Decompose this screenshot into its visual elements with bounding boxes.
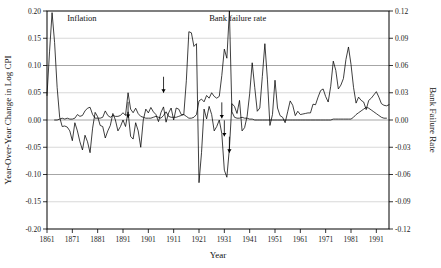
series-annotations: InflationBank failure rate (67, 13, 266, 23)
y-tick-label: -0.15 (25, 197, 41, 206)
y-tick-label: 0.20 (28, 7, 41, 16)
y2-tick-label: 0.03 (395, 88, 408, 97)
event-marker (220, 102, 224, 118)
y2-tick-label: -0.03 (395, 143, 411, 152)
y-tick-label: 0.15 (28, 34, 41, 43)
y-tick-label: 0.10 (28, 61, 41, 70)
chart-canvas: 0.200.150.100.050.00-0.05-0.10-0.15-0.20… (0, 0, 441, 268)
axis-tick-labels: 0.200.150.100.050.00-0.05-0.10-0.15-0.20… (25, 7, 410, 244)
y-tick-label: 0.05 (28, 88, 41, 97)
axis-ticks (43, 11, 393, 233)
event-marker (222, 120, 226, 136)
x-tick-label: 1951 (268, 235, 283, 244)
x-tick-label: 1921 (192, 235, 207, 244)
y-tick-label: -0.05 (25, 143, 41, 152)
x-tick-label: 1991 (369, 235, 384, 244)
x-tick-label: 1891 (116, 235, 131, 244)
annotation-bank-failure-rate: Bank failure rate (209, 13, 266, 23)
x-tick-label: 1901 (141, 235, 156, 244)
x-tick-label: 1971 (318, 235, 333, 244)
y2-tick-label: 0.09 (395, 34, 408, 43)
event-marker (161, 77, 165, 93)
x-tick-label: 1911 (166, 235, 181, 244)
y2-tick-label: -0.12 (395, 225, 411, 234)
x-tick-label: 1981 (344, 235, 359, 244)
y2-tick-label: 0.06 (395, 61, 408, 70)
y2-tick-label: -0.06 (395, 170, 411, 179)
y2-axis-title: Bank Failure Rate (428, 87, 438, 152)
y2-tick-label: 0.12 (395, 7, 408, 16)
y-tick-label: 0.00 (28, 116, 41, 125)
x-tick-label: 1941 (242, 235, 257, 244)
x-axis-title: Year (210, 250, 227, 260)
y2-tick-label: 0.00 (395, 116, 408, 125)
x-tick-label: 1961 (293, 235, 308, 244)
y-axis-title: Year-Over-Year Change in Log CPI (3, 56, 13, 185)
y2-tick-label: -0.09 (395, 197, 411, 206)
y-tick-label: -0.10 (25, 170, 41, 179)
x-tick-label: 1881 (90, 235, 105, 244)
x-tick-label: 1861 (40, 235, 55, 244)
chart-figure: 0.200.150.100.050.00-0.05-0.10-0.15-0.20… (0, 0, 441, 268)
annotation-inflation: Inflation (67, 13, 97, 23)
event-marker (227, 137, 231, 153)
data-series (47, 11, 389, 183)
x-tick-label: 1931 (217, 235, 232, 244)
event-markers (126, 77, 232, 153)
y-tick-label: -0.20 (25, 225, 41, 234)
x-tick-label: 1871 (65, 235, 80, 244)
